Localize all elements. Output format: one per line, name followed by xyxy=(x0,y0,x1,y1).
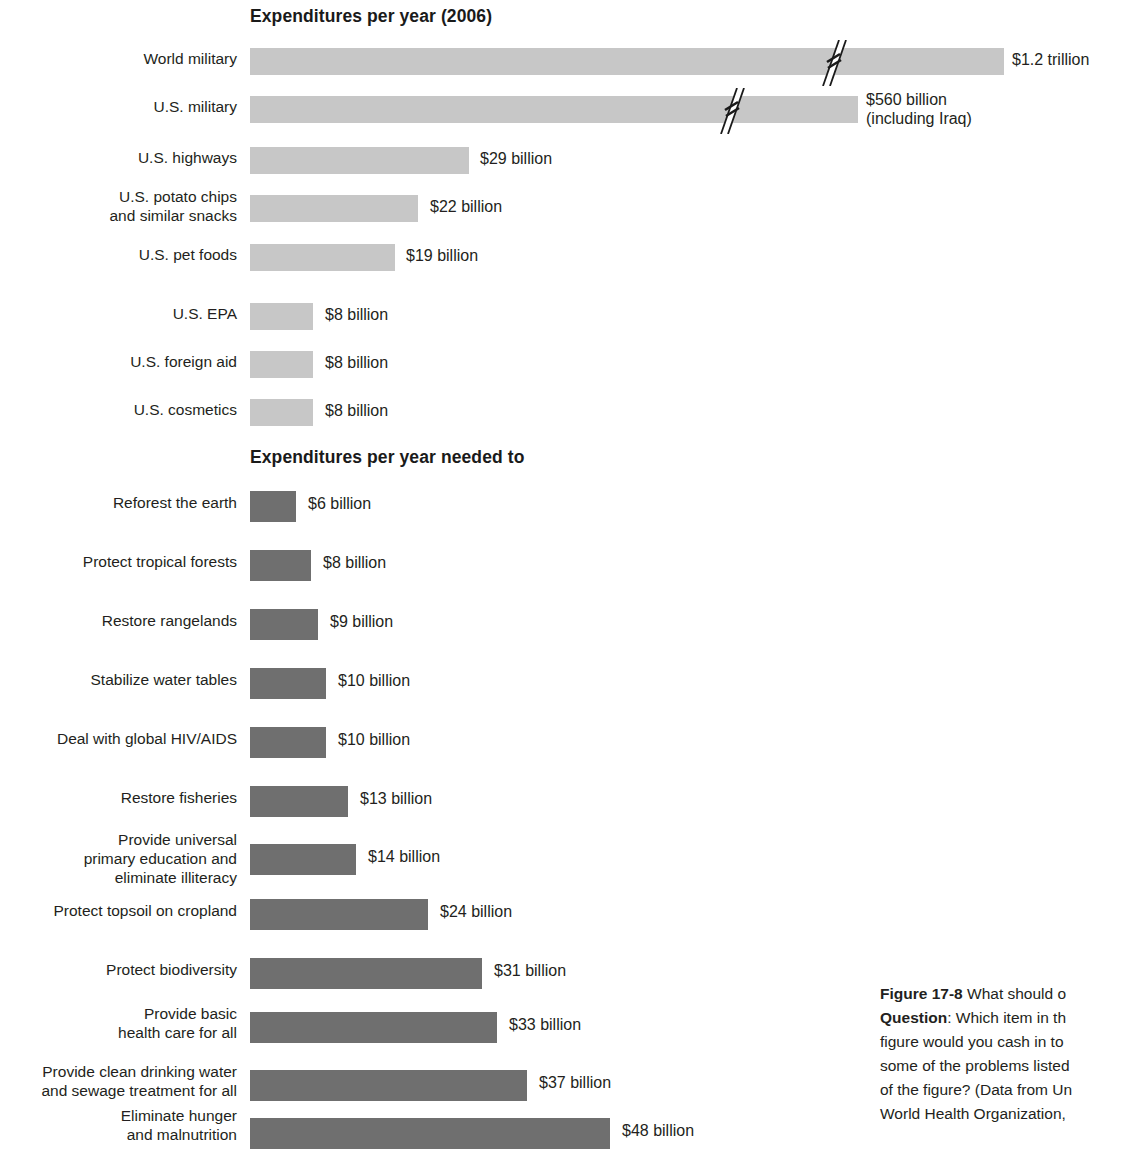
bar-value-label: $8 billion xyxy=(325,401,388,420)
figure-caption: Figure 17-8 What should o Question: Whic… xyxy=(880,982,1147,1126)
bar-us-cosmetics xyxy=(250,399,313,426)
bar-protect-biodiversity xyxy=(250,958,482,989)
bar-category-label: U.S. foreign aid xyxy=(0,352,237,371)
bar-category-label: Protect tropical forests xyxy=(0,552,237,571)
bar-category-label: Deal with global HIV/AIDS xyxy=(0,729,237,748)
bar-value-label: $560 billion (including Iraq) xyxy=(866,90,972,128)
caption-line-2: Question: Which item in th xyxy=(880,1006,1147,1030)
bar-category-label: U.S. potato chips and similar snacks xyxy=(0,187,237,225)
bar-value-label: $14 billion xyxy=(368,847,440,866)
bar-row: U.S. foreign aid $8 billion xyxy=(0,347,1147,389)
bar-row: Deal with global HIV/AIDS $10 billion xyxy=(0,723,1147,769)
bar-category-label: U.S. military xyxy=(0,97,237,116)
bar-value-label: $24 billion xyxy=(440,902,512,921)
bar-value-label: $10 billion xyxy=(338,730,410,749)
bar-row: World military $1.2 trillion xyxy=(0,44,1147,86)
bar-value-label: $33 billion xyxy=(509,1015,581,1034)
bar-value-label: $1.2 trillion xyxy=(1012,50,1089,69)
bar-value-label: $29 billion xyxy=(480,149,552,168)
bar-stabilize-water-tables xyxy=(250,668,326,699)
bar-value-label: $9 billion xyxy=(330,612,393,631)
bar-us-highways xyxy=(250,147,469,174)
bar-category-label: Protect topsoil on cropland xyxy=(0,901,237,920)
bar-reforest-the-earth xyxy=(250,491,296,522)
bar-row: U.S. EPA $8 billion xyxy=(0,299,1147,341)
figure-17-8: Expenditures per year (2006) World milit… xyxy=(0,0,1147,1152)
bar-category-label: Provide universal primary education and … xyxy=(0,830,237,887)
bar-value-label: $8 billion xyxy=(325,305,388,324)
bar-row: U.S. cosmetics $8 billion xyxy=(0,395,1147,437)
bar-row: U.S. pet foods $19 billion xyxy=(0,240,1147,282)
bar-value-label: $8 billion xyxy=(323,553,386,572)
bar-restore-rangelands xyxy=(250,609,318,640)
bar-value-label: $8 billion xyxy=(325,353,388,372)
bar-eliminate-hunger xyxy=(250,1118,610,1149)
bar-row: Stabilize water tables $10 billion xyxy=(0,664,1147,710)
caption-line-2-text: : Which item in th xyxy=(947,1009,1066,1026)
bar-value-label: $6 billion xyxy=(308,494,371,513)
bar-category-label: U.S. EPA xyxy=(0,304,237,323)
bar-row: U.S. highways $29 billion xyxy=(0,143,1147,185)
bar-universal-primary-education xyxy=(250,844,356,875)
bar-row: Reforest the earth $6 billion xyxy=(0,487,1147,533)
bar-category-label: Eliminate hunger and malnutrition xyxy=(0,1106,237,1144)
caption-line-6: World Health Organization, xyxy=(880,1102,1147,1126)
bar-category-label: U.S. cosmetics xyxy=(0,400,237,419)
bar-category-label: Stabilize water tables xyxy=(0,670,237,689)
caption-line-5: of the figure? (Data from Un xyxy=(880,1078,1147,1102)
section-title-expenditures-2006: Expenditures per year (2006) xyxy=(250,6,492,27)
bar-deal-with-global-hiv-aids xyxy=(250,727,326,758)
bar-row: Restore rangelands $9 billion xyxy=(0,605,1147,651)
bar-us-military xyxy=(250,96,858,123)
bar-category-label: Restore fisheries xyxy=(0,788,237,807)
bar-row: Protect topsoil on cropland $24 billion xyxy=(0,895,1147,941)
bar-us-foreign-aid xyxy=(250,351,313,378)
bar-us-pet-foods xyxy=(250,244,395,271)
bar-category-label: Reforest the earth xyxy=(0,493,237,512)
bar-restore-fisheries xyxy=(250,786,348,817)
bar-value-label: $37 billion xyxy=(539,1073,611,1092)
bar-value-label: $48 billion xyxy=(622,1121,694,1140)
bar-protect-tropical-forests xyxy=(250,550,311,581)
caption-line-1: Figure 17-8 What should o xyxy=(880,982,1147,1006)
bar-us-epa xyxy=(250,303,313,330)
bar-value-label: $10 billion xyxy=(338,671,410,690)
bar-row: U.S. military $560 billion (including Ir… xyxy=(0,92,1147,134)
bar-us-potato-chips xyxy=(250,195,418,222)
bar-row: Provide universal primary education and … xyxy=(0,832,1147,888)
caption-line-3: figure would you cash in to xyxy=(880,1030,1147,1054)
caption-question-label: Question xyxy=(880,1009,947,1026)
bar-row: Protect tropical forests $8 billion xyxy=(0,546,1147,592)
bar-category-label: Protect biodiversity xyxy=(0,960,237,979)
bar-basic-health-care-for-all xyxy=(250,1012,497,1043)
bar-category-label: Provide basic health care for all xyxy=(0,1004,237,1042)
caption-figure-number: Figure 17-8 xyxy=(880,985,963,1002)
bar-value-label: $19 billion xyxy=(406,246,478,265)
bar-category-label: Provide clean drinking water and sewage … xyxy=(0,1062,237,1100)
bar-value-label: $13 billion xyxy=(360,789,432,808)
bar-category-label: U.S. pet foods xyxy=(0,245,237,264)
bar-row: Restore fisheries $13 billion xyxy=(0,782,1147,828)
bar-value-label: $31 billion xyxy=(494,961,566,980)
caption-line-1-text: What should o xyxy=(963,985,1066,1002)
bar-row: U.S. potato chips and similar snacks $22… xyxy=(0,191,1147,235)
bar-category-label: World military xyxy=(0,49,237,68)
section-title-expenditures-needed: Expenditures per year needed to xyxy=(250,447,524,468)
bar-clean-drinking-water xyxy=(250,1070,527,1101)
bar-category-label: U.S. highways xyxy=(0,148,237,167)
bar-protect-topsoil-on-cropland xyxy=(250,899,428,930)
caption-line-4: some of the problems listed xyxy=(880,1054,1147,1078)
bar-category-label: Restore rangelands xyxy=(0,611,237,630)
bar-world-military xyxy=(250,48,1004,75)
bar-value-label: $22 billion xyxy=(430,197,502,216)
